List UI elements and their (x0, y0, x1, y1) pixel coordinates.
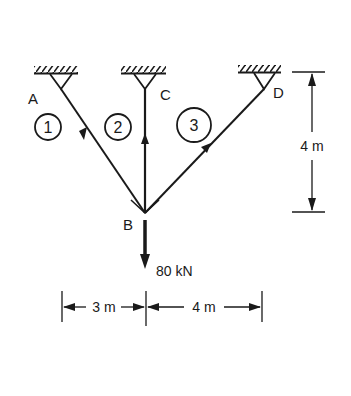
support-a (34, 66, 78, 89)
node-d-label: D (273, 84, 284, 101)
right-span-label: 4 m (192, 299, 215, 315)
height-label: 4 m (300, 138, 323, 154)
arrow-down-icon (308, 198, 316, 211)
arrow-icon (141, 133, 149, 144)
arrow-down-icon (140, 254, 150, 269)
arrow-left-icon (147, 303, 159, 311)
load-label: 80 kN (156, 263, 193, 279)
member-1 (61, 89, 145, 213)
member-2 (141, 89, 149, 213)
arrow-up-icon (308, 73, 316, 86)
member-3-label: 3 (190, 117, 199, 134)
arrow-right-icon (133, 303, 145, 311)
arrow-icon (79, 127, 87, 140)
arrow-left-icon (63, 303, 75, 311)
arrow-right-icon (249, 303, 261, 311)
left-span-label: 3 m (92, 299, 115, 315)
load-arrow (140, 220, 150, 269)
member-3 (145, 89, 264, 213)
arrow-icon (201, 143, 211, 153)
node-a-label: A (28, 90, 38, 107)
node-b-label: B (123, 216, 133, 233)
member-1-label: 1 (44, 119, 53, 136)
truss-diagram: 1 2 3 A C D B 80 kN 4 m 3 m 4 m (0, 0, 351, 396)
node-c-label: C (160, 86, 171, 103)
member-2-label: 2 (114, 119, 123, 136)
